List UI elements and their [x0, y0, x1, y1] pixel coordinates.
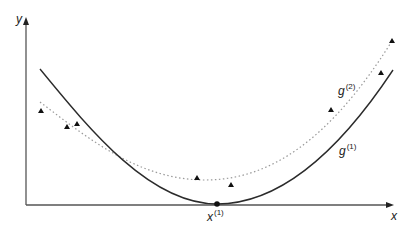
triangle-marker-icon [328, 107, 334, 112]
x-axis-label: x [391, 210, 397, 222]
triangle-marker-icon [378, 70, 384, 75]
triangle-marker-icon [64, 124, 70, 129]
triangle-marker-icon [74, 121, 80, 126]
optimization-diagram [0, 0, 415, 231]
data-point-markers [38, 38, 395, 187]
curve-g1-label: g(1) [339, 144, 356, 157]
triangle-marker-icon [228, 182, 234, 187]
minimum-point-marker [214, 201, 220, 207]
curve-g2-label: g(2) [338, 84, 355, 97]
x-axis-arrow-icon [386, 202, 394, 208]
y-axis-arrow-icon [23, 17, 29, 25]
triangle-marker-icon [194, 175, 200, 180]
curve-g2-dotted [40, 41, 392, 180]
y-axis-label: y [16, 13, 22, 25]
triangle-marker-icon [38, 108, 44, 113]
triangle-marker-icon [389, 38, 395, 43]
minimum-point-label: x(1) [207, 210, 224, 223]
